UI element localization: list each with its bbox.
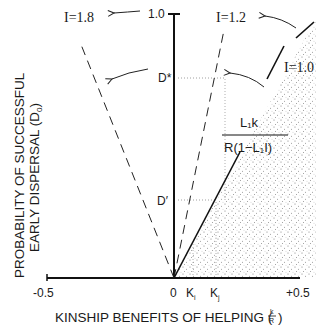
- x-right-tick-label: +0.5: [286, 286, 310, 300]
- arrow-from-d-star-icon: [112, 69, 148, 79]
- arrow-to-d-star-line-icon: [230, 73, 264, 87]
- label-i-1-2: I=1.2: [216, 10, 246, 25]
- x-axis-title-close: ): [278, 310, 283, 325]
- y-top-tick-label: 1.0: [148, 7, 165, 21]
- k-i-label: Ki: [186, 286, 196, 301]
- x-left-tick-label: -0.5: [33, 286, 54, 300]
- line-i-1-0-mid: [267, 46, 284, 79]
- d-star-label: D*: [158, 71, 172, 85]
- x-axis-frac-den: R: [269, 317, 274, 324]
- arrow-to-i-1-8-icon: [114, 11, 140, 13]
- x-axis-title: KINSHIP BENEFITS OF HELPING (: [55, 310, 273, 325]
- x-axis-frac-num: k: [270, 308, 274, 315]
- formula-denominator: R(1−L₁I): [224, 140, 272, 155]
- y-axis-title-line2: EARLY DISPERSAL (D0): [27, 103, 44, 252]
- label-i-1-0: I=1.0: [284, 60, 314, 75]
- y-axis-title: PROBABILITY OF SUCCESSFUL EARLY DISPERSA…: [12, 72, 44, 278]
- label-i-1-8: I=1.8: [64, 10, 94, 25]
- x-origin-label: 0: [170, 286, 177, 300]
- formula-numerator: L₁k: [240, 115, 259, 130]
- dispersal-diagram: I=1.8 I=1.2 I=1.0 1.0 D* D′ L₁k R(1−L₁I)…: [0, 0, 324, 328]
- y-axis-title-line1: PROBABILITY OF SUCCESSFUL: [12, 72, 27, 278]
- arrow-to-i-1-2-icon: [265, 16, 296, 28]
- d-prime-label: D′: [157, 194, 169, 208]
- k-j-label: Kj: [210, 286, 220, 302]
